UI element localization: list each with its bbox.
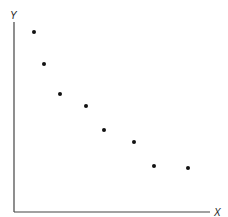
data-point xyxy=(58,92,62,96)
data-point xyxy=(152,164,156,168)
scatter-chart: Y X xyxy=(0,0,228,217)
data-points xyxy=(32,30,190,170)
y-axis-label: Y xyxy=(10,10,18,21)
data-point xyxy=(102,128,106,132)
data-point xyxy=(32,30,36,34)
x-axis-label: X xyxy=(213,207,221,217)
data-point xyxy=(186,166,190,170)
data-point xyxy=(42,62,46,66)
data-point xyxy=(132,140,136,144)
data-point xyxy=(84,104,88,108)
